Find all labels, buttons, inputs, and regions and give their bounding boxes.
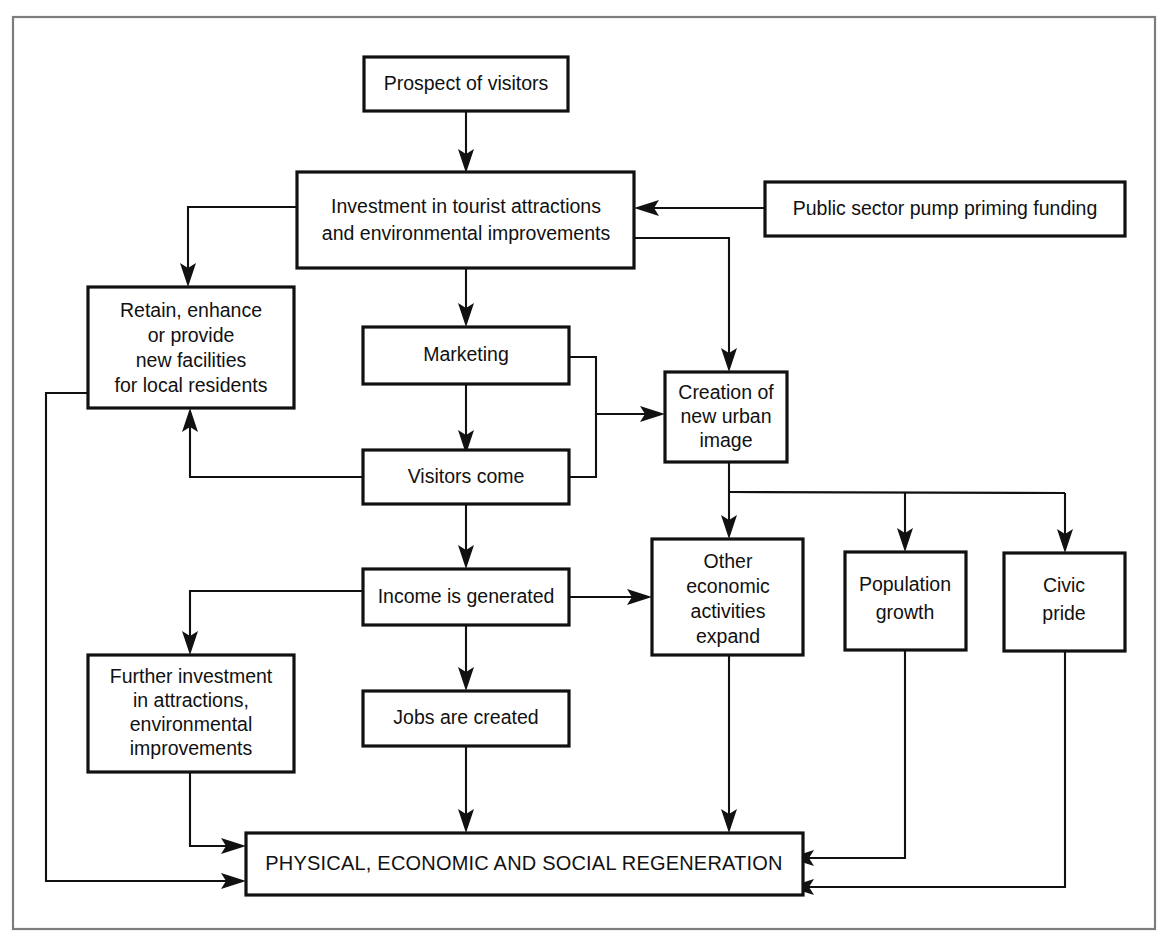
node-investment-in-tourist-attractions[interactable]: Investment in tourist attractions and en…: [297, 172, 634, 268]
node-jobs-line1: Jobs are created: [393, 706, 538, 728]
node-income-line1: Income is generated: [378, 585, 555, 607]
edge-population-to-regeneration: [789, 650, 905, 866]
edge-jobs-to-regeneration: [458, 746, 474, 833]
node-public-sector-pump-priming-funding[interactable]: Public sector pump priming funding: [765, 182, 1125, 236]
node-other-economic-line1: Other: [704, 550, 753, 572]
node-marketing[interactable]: Marketing: [363, 327, 569, 384]
node-urban-image-line2: new urban: [680, 405, 771, 427]
edge-retain-to-regeneration: [46, 393, 246, 889]
edge-income-to-jobs: [458, 625, 474, 691]
edge-income-to-other-economic: [569, 589, 652, 605]
edge-other-economic-to-regeneration: [721, 655, 737, 833]
node-further-investment-line1: Further investment: [110, 665, 273, 687]
edge-public-sector-to-investment: [634, 200, 765, 216]
page-frame: [13, 17, 1155, 929]
node-investment-line2: and environmental improvements: [322, 222, 611, 244]
node-population-line2: growth: [876, 601, 935, 623]
node-civic-pride-line1: Civic: [1043, 574, 1085, 596]
node-prospect-of-visitors[interactable]: Prospect of visitors: [364, 57, 568, 111]
edge-further-investment-to-regeneration: [190, 772, 246, 854]
node-jobs-are-created[interactable]: Jobs are created: [363, 691, 569, 746]
node-visitors-come-line1: Visitors come: [408, 465, 525, 487]
node-further-investment-line3: environmental: [130, 713, 252, 735]
node-further-investment-in-attractions[interactable]: Further investment in attractions, envir…: [88, 655, 294, 772]
node-urban-image-line1: Creation of: [678, 381, 774, 403]
edge-visitors-come-to-retain: [182, 408, 363, 477]
node-investment-line1: Investment in tourist attractions: [331, 195, 601, 217]
node-population-growth[interactable]: Population growth: [845, 552, 966, 650]
node-civic-pride[interactable]: Civic pride: [1004, 553, 1125, 651]
node-other-economic-line4: expand: [696, 625, 760, 647]
node-creation-of-new-urban-image[interactable]: Creation of new urban image: [665, 372, 787, 462]
diagram-canvas: Prospect of visitors Investment in touri…: [0, 0, 1167, 941]
node-public-sector-line1: Public sector pump priming funding: [793, 197, 1098, 219]
node-further-investment-line4: improvements: [130, 737, 253, 759]
flowchart-svg: Prospect of visitors Investment in touri…: [0, 0, 1167, 941]
edge-marketing-to-visitors-come: [458, 384, 474, 454]
node-retain-line3: new facilities: [136, 349, 247, 371]
edge-prospect-to-investment: [458, 111, 474, 173]
edge-investment-to-retain: [180, 207, 297, 287]
edge-income-to-further-investment: [182, 591, 363, 655]
node-population-line1: Population: [859, 573, 951, 595]
node-regeneration-line1: PHYSICAL, ECONOMIC AND SOCIAL REGENERATI…: [265, 852, 782, 874]
node-visitors-come[interactable]: Visitors come: [363, 450, 569, 504]
node-further-investment-line2: in attractions,: [133, 689, 249, 711]
node-other-economic-line2: economic: [686, 575, 770, 597]
node-retain-line2: or provide: [148, 324, 235, 346]
node-income-is-generated[interactable]: Income is generated: [363, 569, 569, 625]
edge-visitors-come-to-income: [458, 504, 474, 569]
node-prospect-of-visitors-line1: Prospect of visitors: [384, 72, 549, 94]
edge-urban-image-to-other-economic: [721, 462, 737, 539]
node-retain-line1: Retain, enhance: [120, 299, 262, 321]
node-other-economic-line3: activities: [691, 600, 766, 622]
node-civic-pride-line2: pride: [1042, 602, 1085, 624]
node-other-economic-activities-expand[interactable]: Other economic activities expand: [652, 539, 803, 655]
edge-investment-to-urban-image: [634, 238, 737, 372]
node-physical-economic-and-social-regeneration[interactable]: PHYSICAL, ECONOMIC AND SOCIAL REGENERATI…: [246, 833, 803, 895]
edge-investment-to-marketing: [458, 268, 474, 327]
node-retain-line4: for local residents: [115, 374, 268, 396]
edge-marketing-visitors-to-urban-image: [569, 357, 665, 477]
node-urban-image-line3: image: [699, 429, 752, 451]
node-retain-enhance-or-provide-new-facilities[interactable]: Retain, enhance or provide new facilitie…: [88, 287, 294, 408]
node-marketing-line1: Marketing: [423, 343, 509, 365]
